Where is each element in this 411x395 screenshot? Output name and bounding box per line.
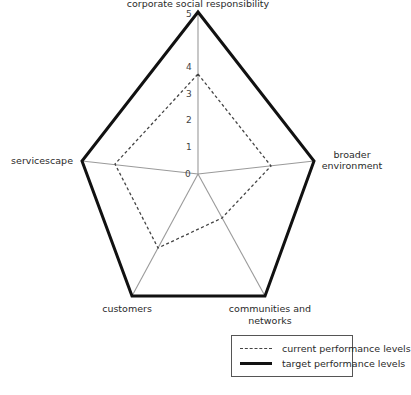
axis-communities	[198, 174, 265, 296]
legend-item-current: current performance levels	[240, 341, 411, 355]
tick-3: 3	[186, 89, 192, 99]
label-broader-1: broader	[333, 149, 370, 160]
tick-4: 4	[186, 62, 192, 72]
label-servicescape: servicescape	[11, 155, 73, 166]
tick-1: 1	[186, 142, 192, 152]
legend-label-current: current performance levels	[282, 343, 411, 354]
solid-line-swatch-icon	[240, 362, 272, 365]
current-performance-polygon	[115, 74, 271, 248]
tick-5: 5	[186, 9, 192, 19]
axis-servicescape	[82, 161, 198, 174]
tick-0: 0	[185, 169, 191, 179]
axis-broader-environment	[198, 161, 314, 174]
label-customers: customers	[102, 303, 152, 314]
dashed-line-swatch-icon	[240, 348, 272, 349]
axis-customers	[132, 174, 198, 296]
label-csr: corporate social responsibility	[127, 0, 270, 9]
label-communities-2: networks	[248, 315, 292, 326]
legend-item-target: target performance levels	[240, 356, 405, 370]
tick-2: 2	[186, 115, 192, 125]
legend-label-target: target performance levels	[282, 358, 405, 369]
label-communities-1: communities and	[229, 303, 311, 314]
scale-ticks: 5 4 3 2 1 0	[185, 9, 192, 179]
legend: current performance levels target perfor…	[231, 335, 353, 377]
label-broader-2: environment	[322, 160, 383, 171]
